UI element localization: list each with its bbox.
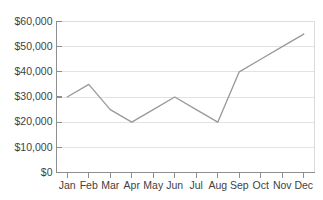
x-tick-label: Apr — [124, 179, 141, 191]
y-tick-marks-group — [57, 22, 62, 173]
y-tick-labels-group: $0$10,000$20,000$30,000$40,000$50,000$60… — [15, 15, 53, 178]
y-tick-label: $10,000 — [15, 141, 53, 153]
y-tick-label: $20,000 — [15, 115, 53, 127]
data-series-group — [67, 34, 304, 122]
y-tick-label: $0 — [41, 166, 53, 178]
y-tick-label: $30,000 — [15, 90, 53, 102]
x-tick-label: Jan — [59, 179, 76, 191]
x-tick-label: Dec — [294, 179, 313, 191]
x-tick-label: Jul — [190, 179, 203, 191]
x-tick-label: May — [143, 179, 164, 191]
y-tick-label: $40,000 — [15, 65, 53, 77]
y-tick-label: $60,000 — [15, 15, 53, 27]
y-tick-label: $50,000 — [15, 40, 53, 52]
x-tick-label: Nov — [273, 179, 292, 191]
x-tick-labels-group: JanFebMarAprMayJunJulAugSepOctNovDec — [59, 179, 313, 191]
line-chart: $0$10,000$20,000$30,000$40,000$50,000$60… — [0, 0, 323, 200]
x-tick-label: Jun — [166, 179, 183, 191]
x-tick-label: Sep — [230, 179, 249, 191]
x-tick-label: Mar — [101, 179, 120, 191]
x-tick-label: Feb — [80, 179, 98, 191]
x-tick-label: Oct — [253, 179, 269, 191]
x-tick-label: Aug — [208, 179, 227, 191]
chart-plot-area: $0$10,000$20,000$30,000$40,000$50,000$60… — [0, 0, 323, 200]
x-tick-marks-group — [67, 173, 304, 178]
data-series-line — [67, 34, 304, 122]
gridlines-group — [57, 22, 315, 148]
